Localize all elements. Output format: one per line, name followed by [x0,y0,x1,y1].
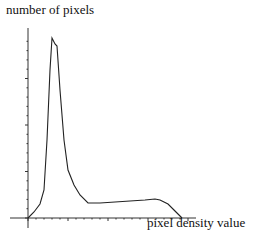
y-axis-label: number of pixels [6,2,94,18]
histogram-plot [0,0,260,239]
x-axis-label: pixel density value [147,215,245,231]
histogram-curve [28,38,182,218]
y-axis [25,28,28,228]
